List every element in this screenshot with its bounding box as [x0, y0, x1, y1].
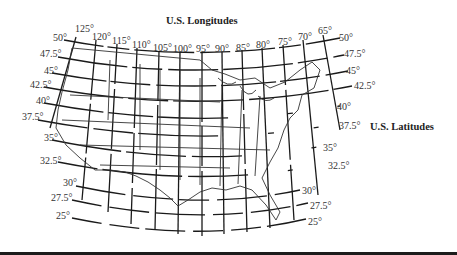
- east-coast: [262, 95, 302, 178]
- longitude-label: 120°: [92, 32, 111, 42]
- latitude-label: 45°: [44, 66, 58, 76]
- latitudes-title: U.S. Latitudes: [370, 121, 434, 132]
- longitude-65: [323, 35, 340, 130]
- latitude-label: 35°: [323, 143, 337, 153]
- west-coast: [56, 48, 95, 170]
- longitude-label: 75°: [278, 37, 292, 47]
- longitude-label: 95°: [196, 44, 210, 54]
- longitude-90: [222, 52, 224, 234]
- latitude-label: 42.5°: [30, 80, 52, 90]
- latitude-47-5: [58, 55, 344, 70]
- latitude-label: 37.5°: [339, 121, 361, 131]
- longitude-label: 110°: [132, 40, 151, 50]
- longitude-label: 65°: [318, 26, 332, 36]
- latitude-25: [72, 218, 306, 231]
- latitude-label: 40°: [36, 96, 50, 106]
- latitude-label: 25°: [56, 211, 70, 221]
- latitude-label: 27.5°: [310, 201, 332, 211]
- latitude-label: 42.5°: [354, 81, 376, 91]
- longitude-label: 100°: [173, 44, 192, 54]
- longitude-label: 80°: [256, 40, 270, 50]
- longitude-105: [155, 51, 159, 230]
- latitude-label: 50°: [53, 33, 67, 43]
- longitude-80: [262, 48, 270, 228]
- longitude-75: [283, 45, 294, 220]
- latitude-label: 45°: [346, 66, 360, 76]
- longitude-110: [131, 48, 137, 224]
- latitude-label: 32.5°: [40, 156, 62, 166]
- longitude-120: [82, 40, 96, 200]
- longitude-85: [242, 50, 247, 232]
- longitude-label: 85°: [236, 43, 250, 53]
- latitude-label: 40°: [337, 102, 351, 112]
- latitude-label: 30°: [302, 186, 316, 196]
- latitude-label: 27.5°: [51, 193, 73, 203]
- latitude-label: 25°: [308, 217, 322, 227]
- latitude-label: 50°: [339, 33, 353, 43]
- latitude-35: [52, 140, 322, 157]
- great-lakes: [218, 78, 274, 101]
- latitude-27-5: [72, 200, 308, 215]
- longitude-label: 105°: [153, 43, 172, 53]
- latitude-40: [44, 103, 340, 118]
- latitude-37-5: [38, 120, 336, 136]
- longitude-label: 90°: [215, 44, 229, 54]
- latitude-label: 47.5°: [344, 49, 366, 59]
- latitude-label: 37.5°: [22, 112, 44, 122]
- longitude-label: 115°: [112, 36, 131, 46]
- latitude-label: 32.5°: [328, 161, 350, 171]
- latitude-32-5: [58, 162, 326, 177]
- longitude-label: 70°: [298, 32, 312, 42]
- latitude-label: 35°: [44, 133, 58, 143]
- longitudes-title: U.S. Longitudes: [166, 15, 237, 26]
- latitude-label: 30°: [63, 178, 77, 188]
- latitude-label: 47.5°: [40, 49, 62, 59]
